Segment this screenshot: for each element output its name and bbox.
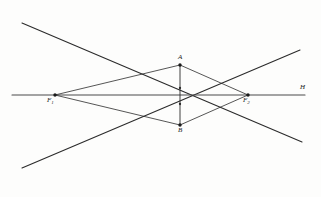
axis-tick-upper [179, 87, 181, 89]
label-axis-end-h: H [300, 84, 305, 91]
axis-tick-lower [179, 103, 181, 105]
label-point-f2: F2 [243, 97, 250, 105]
label-axis-end-h-text: H [300, 83, 305, 91]
figure-canvas: A B F1 F2 H [0, 0, 321, 197]
label-point-f2-subscript: 2 [247, 100, 250, 105]
label-point-b: B [178, 127, 182, 134]
label-point-a: A [178, 54, 182, 61]
label-point-f1: F1 [47, 97, 54, 105]
label-point-f1-subscript: 1 [51, 100, 54, 105]
point-f1-marker [53, 93, 56, 96]
label-point-b-text: B [178, 126, 182, 134]
label-point-a-text: A [178, 53, 182, 61]
point-a-marker [178, 63, 181, 66]
